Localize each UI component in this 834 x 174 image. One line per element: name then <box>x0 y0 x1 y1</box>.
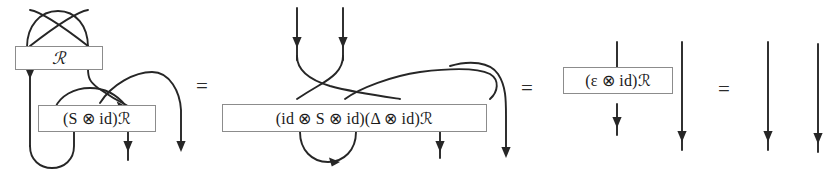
operator-box-eps-id-r[interactable]: (ε ⊗ id)ℛ <box>563 67 673 94</box>
equals-sign-1: = <box>196 76 208 97</box>
operator-box-id-s-id-delta-id-r-label: (id ⊗ S ⊗ id)(Δ ⊗ id)ℛ <box>276 109 433 128</box>
operator-box-s-id-r[interactable]: (S ⊗ id)ℛ <box>38 105 156 132</box>
panel-3-wires <box>612 42 686 150</box>
panel-1-wires <box>25 10 185 168</box>
operator-box-s-id-r-label: (S ⊗ id)ℛ <box>63 109 131 128</box>
equals-sign-2: = <box>521 78 533 99</box>
operator-box-r-label: ℛ <box>52 48 66 69</box>
string-diagram-wires <box>0 0 834 174</box>
panel-4-wires <box>763 42 822 152</box>
operator-box-r[interactable]: ℛ <box>15 46 103 70</box>
equals-sign-3: = <box>718 79 730 100</box>
operator-box-id-s-id-delta-id-r[interactable]: (id ⊗ S ⊗ id)(Δ ⊗ id)ℛ <box>222 104 487 132</box>
figure-canvas: ℛ (S ⊗ id)ℛ (id ⊗ S ⊗ id)(Δ ⊗ id)ℛ (ε ⊗ … <box>0 0 834 174</box>
operator-box-eps-id-r-label: (ε ⊗ id)ℛ <box>585 71 651 90</box>
panel-2-wires <box>292 8 510 167</box>
